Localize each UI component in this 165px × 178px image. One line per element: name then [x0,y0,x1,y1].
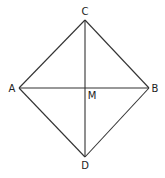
label-b: B [152,83,159,94]
label-a: A [9,83,16,94]
label-d: D [81,160,89,171]
label-c: C [82,6,89,17]
segment-ac [19,20,85,88]
segment-da [19,88,85,157]
segment-cb [85,20,149,88]
diagram-canvas: C A B D M [0,0,165,178]
label-m: M [88,90,97,101]
